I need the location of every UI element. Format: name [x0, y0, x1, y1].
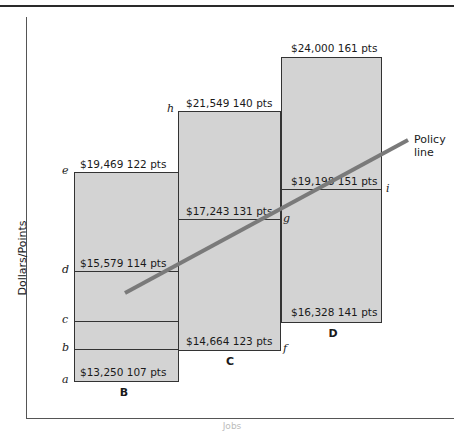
- policy-line-label-2: line: [414, 146, 446, 159]
- policy-line-label-1: Policy: [414, 133, 446, 146]
- policy-line-label: Policy line: [414, 133, 446, 159]
